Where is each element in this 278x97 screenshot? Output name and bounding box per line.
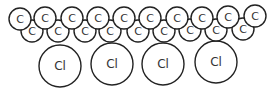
chlorine-atom-1: Cl — [39, 45, 81, 87]
carbon-atom-top-7-label: C — [173, 12, 181, 25]
carbon-atom-top-8-label: C — [198, 12, 206, 25]
chlorine-atoms: ClClClCl — [39, 41, 237, 87]
carbon-atom-bottom-8-label: C — [212, 24, 220, 37]
carbon-atom-top-9: C — [217, 6, 239, 28]
chlorine-atom-3: Cl — [142, 43, 184, 85]
carbon-atom-bottom-9-label: C — [239, 23, 247, 36]
carbon-atom-top-5-label: C — [120, 12, 128, 25]
carbon-atom-top-4-label: C — [94, 12, 102, 25]
carbon-atom-bottom-1-label: C — [28, 25, 36, 38]
carbon-atom-top-3: C — [61, 7, 83, 29]
carbon-atom-top-4: C — [87, 7, 109, 29]
chlorine-atom-3-label: Cl — [157, 57, 169, 71]
carbon-atom-top-8: C — [191, 7, 213, 29]
carbon-atom-top-3-label: C — [68, 12, 76, 25]
carbon-atom-top-1-label: C — [16, 13, 24, 26]
carbon-atom-top-10: C — [244, 5, 266, 27]
carbon-atom-top-2-label: C — [41, 12, 49, 25]
carbon-atom-top-2: C — [34, 7, 56, 29]
carbon-atom-top-9-label: C — [224, 11, 232, 24]
pvc-structure-diagram: ClClClCl CCCCCCCCCCCCCCCCCCC — [0, 0, 278, 97]
carbon-atom-top-7: C — [166, 7, 188, 29]
carbon-atom-bottom-3-label: C — [81, 25, 89, 38]
carbon-atom-top-6: C — [139, 7, 161, 29]
carbon-atom-bottom-4-label: C — [106, 25, 114, 38]
carbon-atom-top-1: C — [9, 8, 31, 30]
chlorine-atom-4-label: Cl — [210, 55, 222, 69]
carbon-atom-bottom-2-label: C — [54, 25, 62, 38]
diagram-canvas: ClClClCl CCCCCCCCCCCCCCCCCCC — [0, 0, 278, 97]
carbon-chain: CCCCCCCCCCCCCCCCCCC — [9, 5, 266, 42]
carbon-atom-bottom-6-label: C — [160, 25, 168, 38]
chlorine-atom-2: Cl — [91, 43, 133, 85]
carbon-atom-top-6-label: C — [146, 12, 154, 25]
carbon-atom-top-5: C — [113, 7, 135, 29]
carbon-atom-bottom-5-label: C — [134, 25, 142, 38]
carbon-atom-bottom-7-label: C — [186, 24, 194, 37]
carbon-atom-top-10-label: C — [251, 10, 259, 23]
chlorine-atom-4: Cl — [195, 41, 237, 83]
chlorine-atom-2-label: Cl — [106, 57, 118, 71]
chlorine-atom-1-label: Cl — [54, 59, 66, 73]
